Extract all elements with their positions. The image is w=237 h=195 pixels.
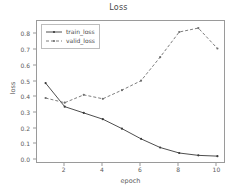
data-point-valid-loss (197, 27, 199, 29)
y-tick-label: 0.1 (8, 140, 30, 147)
legend-item-train-loss: train_loss (45, 28, 95, 36)
legend-label-valid-loss: valid_loss (66, 37, 95, 45)
x-tick-label: 8 (170, 166, 186, 173)
y-tick-label: 0.5 (8, 77, 30, 84)
data-point-valid-loss (44, 97, 46, 99)
data-point-train-loss (64, 106, 66, 108)
data-point-train-loss (197, 154, 199, 156)
chart-title: Loss (0, 3, 237, 12)
data-point-valid-loss (140, 80, 142, 82)
legend-swatch-train-loss (45, 28, 63, 36)
data-point-train-loss (102, 118, 104, 120)
legend-item-valid-loss: valid_loss (45, 37, 95, 45)
data-point-valid-loss (102, 98, 104, 100)
data-point-valid-loss (178, 31, 180, 33)
data-point-valid-loss (83, 94, 85, 96)
y-tick-label: 0.3 (8, 108, 30, 115)
legend-label-train-loss: train_loss (66, 28, 95, 36)
data-point-train-loss (159, 146, 161, 148)
y-tick-label: 0.4 (8, 93, 30, 100)
x-tick-label: 6 (132, 166, 148, 173)
x-tick-label: 10 (208, 166, 224, 173)
x-tick-label: 2 (56, 166, 72, 173)
data-point-valid-loss (121, 89, 123, 91)
data-point-train-loss (140, 138, 142, 140)
chart-legend: train_loss valid_loss (41, 24, 100, 49)
data-point-train-loss (83, 112, 85, 114)
series-line-train-loss (46, 83, 218, 156)
legend-swatch-valid-loss (45, 37, 63, 45)
data-point-train-loss (44, 82, 46, 84)
y-tick-label: 0.2 (8, 124, 30, 131)
data-point-train-loss (178, 152, 180, 154)
x-tick-label: 4 (94, 166, 110, 173)
y-tick-label: 0.8 (8, 30, 30, 37)
y-tick-label: 0.6 (8, 61, 30, 68)
x-axis-label: epoch (36, 177, 225, 185)
data-point-train-loss (216, 155, 218, 157)
loss-chart-figure: Loss loss epoch 0.00.10.20.30.40.50.60.7… (0, 0, 237, 195)
data-point-train-loss (121, 128, 123, 130)
y-tick-label: 0.7 (8, 46, 30, 53)
data-point-valid-loss (159, 56, 161, 58)
y-tick-label: 0.0 (8, 156, 30, 163)
y-axis-label: loss (9, 68, 17, 108)
data-point-valid-loss (64, 102, 66, 104)
data-point-valid-loss (216, 47, 218, 49)
